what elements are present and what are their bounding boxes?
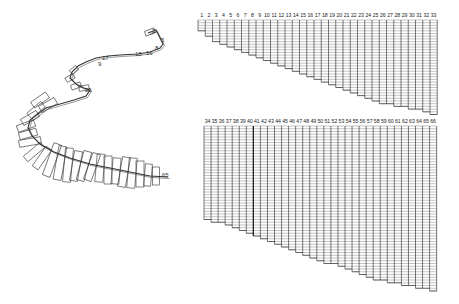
column-label: 60 xyxy=(388,118,394,124)
column-label: 35 xyxy=(212,118,218,124)
column-label: 40 xyxy=(247,118,253,124)
column-label: 45 xyxy=(282,118,288,124)
column-label: 52 xyxy=(332,118,338,124)
column-label: 48 xyxy=(303,118,309,124)
column-label: 55 xyxy=(353,118,359,124)
column-label: 65 xyxy=(423,118,429,124)
column-label: 41 xyxy=(254,118,260,124)
column-label: 54 xyxy=(346,118,352,124)
column-label: 58 xyxy=(374,118,380,124)
column-label: 66 xyxy=(430,118,436,124)
column-label: 36 xyxy=(219,118,225,124)
bottom-grid-svg: 3435363738394041424344454647484950515253… xyxy=(0,0,459,304)
column-label: 49 xyxy=(310,118,316,124)
column-label: 34 xyxy=(205,118,211,124)
column-label: 61 xyxy=(395,118,401,124)
column-label: 50 xyxy=(317,118,323,124)
column-label: 64 xyxy=(416,118,422,124)
column-label: 56 xyxy=(360,118,366,124)
column-label: 59 xyxy=(381,118,387,124)
column-label: 37 xyxy=(226,118,232,124)
column-label: 63 xyxy=(409,118,415,124)
column-label: 51 xyxy=(324,118,330,124)
column-label: 46 xyxy=(289,118,295,124)
column-label: 43 xyxy=(268,118,274,124)
column-label: 44 xyxy=(275,118,281,124)
column-label: 53 xyxy=(339,118,345,124)
column-label: 42 xyxy=(261,118,267,124)
column-label: 62 xyxy=(402,118,408,124)
column-label: 47 xyxy=(296,118,302,124)
column-label: 39 xyxy=(240,118,246,124)
column-label: 38 xyxy=(233,118,239,124)
column-label: 57 xyxy=(367,118,373,124)
bottom-staircase-grid: 3435363738394041424344454647484950515253… xyxy=(0,0,459,304)
